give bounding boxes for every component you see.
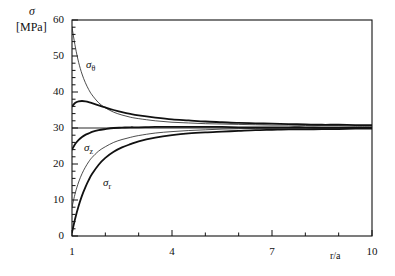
x-tick-label: 4 xyxy=(162,245,182,257)
y-axis-symbol-label: σ xyxy=(29,4,35,19)
y-tick-label: 0 xyxy=(38,229,64,241)
x-tick-label: 1 xyxy=(62,245,82,257)
stress-distribution-figure: σ [MPa] r/a σθ σz σr 010203040506014710 xyxy=(0,0,395,276)
y-tick-label: 20 xyxy=(38,157,64,169)
curve-series-3 xyxy=(72,128,372,207)
y-tick-label: 10 xyxy=(38,193,64,205)
sigma-r-subscript: r xyxy=(108,182,111,191)
y-tick-label: 50 xyxy=(38,49,64,61)
curve-label-sigma-r: σr xyxy=(103,176,111,191)
x-tick-label: 10 xyxy=(362,245,382,257)
curve-series-2 xyxy=(72,127,372,150)
sigma-theta-subscript: θ xyxy=(91,64,95,73)
x-axis-title-label: r/a xyxy=(330,250,341,261)
curve-label-sigma-theta: σθ xyxy=(86,58,95,73)
curve-series-4 xyxy=(72,129,372,233)
y-tick-label: 60 xyxy=(38,13,64,25)
curve-label-sigma-z: σz xyxy=(84,141,93,156)
x-tick-label: 7 xyxy=(262,245,282,257)
sigma-z-subscript: z xyxy=(89,147,93,156)
y-tick-label: 40 xyxy=(38,85,64,97)
y-tick-label: 30 xyxy=(38,121,64,133)
